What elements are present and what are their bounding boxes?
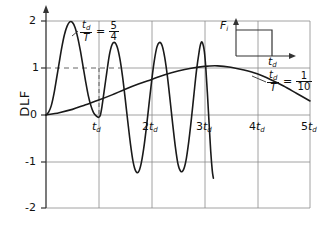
y-tick-marks xyxy=(41,21,46,208)
inset-y-axis-label: Fi xyxy=(220,19,228,33)
y-axis-title: DLF xyxy=(17,74,32,134)
x-tick-3td-sub: d xyxy=(207,126,211,134)
inset-y-sub: i xyxy=(226,25,228,33)
x-tick-label-5td: 5td xyxy=(301,120,317,134)
force-pulse-inset xyxy=(233,18,296,59)
plot-canvas xyxy=(0,0,329,233)
annot-b-value: 1 10 xyxy=(296,71,313,92)
annot-a-equals: = xyxy=(96,25,105,38)
annot-a-den: T xyxy=(80,32,92,43)
annot-a-ratio: td T xyxy=(80,20,92,43)
x-tick-3td-prefix: 3 xyxy=(196,120,203,133)
x-tick-label-td: td xyxy=(92,120,101,134)
annot-a-value-num: 5 xyxy=(109,21,119,31)
inset-x-axis-arrow xyxy=(289,53,296,59)
inset-y-axis-arrow xyxy=(233,18,239,25)
x-tick-label-3td: 3td xyxy=(196,120,212,134)
x-tick-label-2td: 2td xyxy=(142,120,158,134)
x-tick-2td-sub: d xyxy=(153,126,157,134)
y-tick-label-2: 2 xyxy=(29,14,36,27)
annot-a-value: 5 4 xyxy=(109,21,119,42)
x-tick-4td-prefix: 4 xyxy=(249,120,256,133)
y-axis-arrow xyxy=(43,5,49,13)
y-tick-label-1: 1 xyxy=(32,61,39,74)
inset-x-sub: d xyxy=(272,61,276,69)
x-tick-td-sub: d xyxy=(96,126,100,134)
y-tick-label-minus-2: -2 xyxy=(25,201,36,214)
grid-lines xyxy=(46,21,310,208)
x-tick-label-4td: 4td xyxy=(249,120,265,134)
annot-a-value-den: 4 xyxy=(109,31,119,42)
annot-b-num: td xyxy=(267,70,279,82)
y-tick-label-minus-1: -1 xyxy=(25,155,36,168)
x-tick-5td-prefix: 5 xyxy=(301,120,308,133)
annot-a-num: td xyxy=(80,20,92,32)
dlf-response-chart: DLF 2 1 0 -1 -2 td 2td 3td 4td 5td td T … xyxy=(0,0,329,233)
x-tick-2td-prefix: 2 xyxy=(142,120,149,133)
inset-pulse-shape xyxy=(236,30,272,56)
annotation-td-over-T-1-10: td T = 1 10 xyxy=(267,70,312,93)
x-tick-5td-sub: d xyxy=(312,126,316,134)
curve-td-over-T-5-4 xyxy=(46,21,213,178)
annot-b-equals: = xyxy=(283,75,292,88)
x-tick-4td-sub: d xyxy=(260,126,264,134)
annot-b-value-den: 10 xyxy=(296,81,313,92)
annot-b-ratio: td T xyxy=(267,70,279,93)
annotation-td-over-T-5-4: td T = 5 4 xyxy=(80,20,119,43)
annot-b-value-num: 1 xyxy=(296,71,313,81)
inset-x-axis-label: td xyxy=(268,55,277,69)
annot-b-den: T xyxy=(267,82,279,93)
y-tick-label-0: 0 xyxy=(30,108,37,121)
